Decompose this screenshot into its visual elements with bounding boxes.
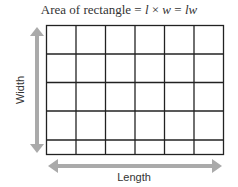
width-label: Width — [14, 76, 26, 104]
length-label: Length — [117, 171, 151, 183]
width-arrow-icon — [30, 27, 44, 153]
rectangle-grid — [47, 26, 224, 155]
rectangle-diagram: Width Length — [0, 0, 238, 187]
